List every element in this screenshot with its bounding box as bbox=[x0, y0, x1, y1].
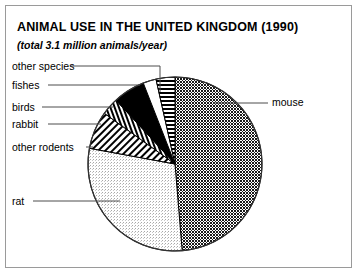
pie-label-rabbit: rabbit bbox=[12, 119, 38, 130]
pie-label-birds: birds bbox=[12, 102, 35, 113]
pie-label-fishes: fishes bbox=[12, 80, 39, 91]
pie-chart-plot bbox=[0, 0, 359, 279]
pie-label-mouse: mouse bbox=[272, 97, 304, 108]
pie-label-rat: rat bbox=[12, 196, 24, 207]
pie-slice-rat bbox=[88, 148, 182, 251]
pie-label-other-species: other species bbox=[12, 61, 74, 72]
pie-label-other-rodents: other rodents bbox=[12, 142, 74, 153]
